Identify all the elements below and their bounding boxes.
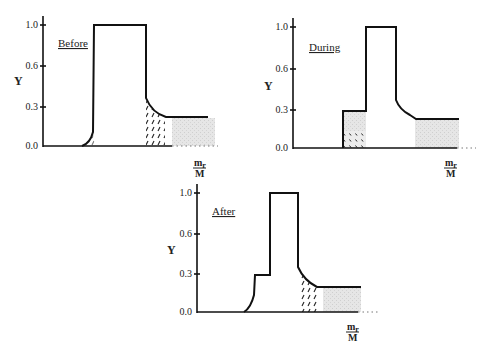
- y-tick-label: 0.0: [276, 142, 289, 153]
- y-tick-label: 0.3: [276, 104, 289, 115]
- y-tick-label: 1.0: [180, 187, 193, 198]
- x-axis-label: mr M: [193, 157, 206, 179]
- figure: 1.0 0.6 0.3 0.0 Y Before mr M 1.0 0.6 0.…: [0, 0, 489, 349]
- svg-text:M: M: [446, 168, 456, 179]
- stippled-region: [172, 118, 215, 146]
- panel-before: 1.0 0.6 0.3 0.0 Y Before mr M: [14, 16, 218, 179]
- panel-during: 1.0 0.6 0.3 0.0 Y During mr M: [264, 18, 476, 179]
- y-tick-label: 1.0: [26, 19, 39, 30]
- y-tick-label: 0.3: [180, 268, 193, 279]
- y-axis-label: Y: [264, 79, 273, 93]
- x-axis-label: mr M: [444, 157, 457, 179]
- svg-text:M: M: [195, 168, 205, 179]
- y-axis-label: Y: [167, 243, 176, 257]
- y-axis-label: Y: [14, 74, 23, 88]
- y-tick-label: 0.6: [276, 63, 289, 74]
- panel-title: Before: [58, 37, 88, 49]
- hatched-region: [299, 270, 318, 312]
- y-tick-label: 1.0: [276, 21, 289, 32]
- hatched-region: [146, 100, 165, 146]
- y-tick-label: 0.0: [180, 306, 193, 317]
- panel-after: 1.0 0.6 0.3 0.0 Y After mr M: [167, 184, 378, 343]
- dotted-step-region: [343, 131, 366, 148]
- y-tick-label: 0.6: [26, 60, 39, 71]
- panel-title: After: [212, 205, 236, 217]
- stippled-region: [323, 288, 361, 312]
- y-tick-label: 0.3: [26, 101, 39, 112]
- stippled-tail-region: [415, 119, 459, 148]
- y-tick-label: 0.0: [26, 140, 39, 151]
- x-axis-label: mr M: [346, 321, 359, 343]
- svg-text:M: M: [348, 332, 358, 343]
- panel-title: During: [309, 41, 341, 53]
- y-tick-label: 0.6: [180, 228, 193, 239]
